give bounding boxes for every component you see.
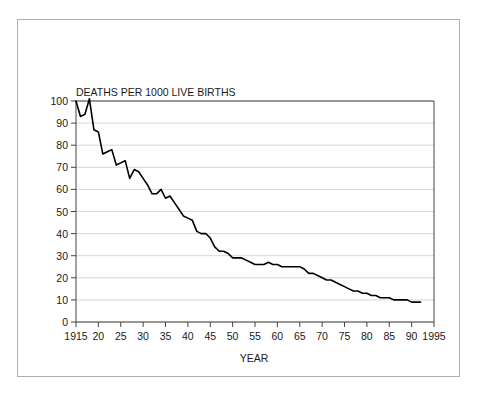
chart-title: DEATHS PER 1000 LIVE BIRTHS (76, 86, 236, 98)
x-tick-label: 45 (204, 330, 216, 342)
y-tick-label: 60 (56, 183, 68, 195)
y-axis-ticks (71, 101, 76, 322)
x-tick-label: 1915 (64, 330, 88, 342)
y-tick-label: 100 (50, 95, 68, 107)
y-axis-tick-labels: 0102030405060708090100 (50, 95, 68, 328)
x-tick-label: 30 (137, 330, 149, 342)
line-chart: 19152025303540455055606570758085901995 0… (0, 0, 482, 398)
x-tick-label: 35 (160, 330, 172, 342)
x-tick-label: 80 (361, 330, 373, 342)
y-tick-label: 40 (56, 228, 68, 240)
x-tick-label: 60 (272, 330, 284, 342)
y-tick-label: 20 (56, 272, 68, 284)
chart-area: 19152025303540455055606570758085901995 0… (0, 0, 482, 398)
y-tick-label: 80 (56, 139, 68, 151)
data-series-line (76, 99, 421, 302)
y-tick-label: 10 (56, 294, 68, 306)
x-axis-ticks (76, 322, 434, 327)
x-axis-label: YEAR (240, 352, 269, 364)
x-tick-label: 55 (249, 330, 261, 342)
x-tick-label: 85 (383, 330, 395, 342)
x-tick-label: 25 (115, 330, 127, 342)
x-tick-label: 40 (182, 330, 194, 342)
y-tick-label: 50 (56, 206, 68, 218)
x-tick-label: 1995 (422, 330, 446, 342)
x-tick-label: 70 (316, 330, 328, 342)
x-tick-label: 65 (294, 330, 306, 342)
y-tick-label: 70 (56, 161, 68, 173)
y-tick-label: 30 (56, 250, 68, 262)
x-tick-label: 50 (227, 330, 239, 342)
x-tick-label: 75 (339, 330, 351, 342)
gridlines-group (76, 101, 434, 322)
x-tick-label: 90 (406, 330, 418, 342)
figure-container: 19152025303540455055606570758085901995 0… (0, 0, 482, 398)
y-tick-label: 0 (62, 316, 68, 328)
y-tick-label: 90 (56, 117, 68, 129)
x-axis-tick-labels: 19152025303540455055606570758085901995 (64, 330, 446, 342)
x-tick-label: 20 (93, 330, 105, 342)
